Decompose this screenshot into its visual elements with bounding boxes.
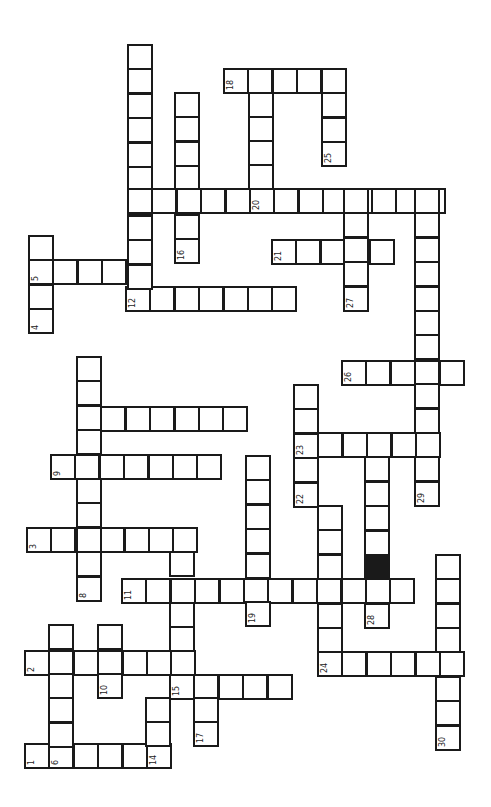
grid-cell[interactable]: 30 [435,725,461,751]
grid-cell[interactable] [174,92,200,118]
grid-cell[interactable] [341,651,367,677]
grid-cell[interactable] [127,93,153,119]
grid-cell[interactable] [435,554,461,580]
grid-cell[interactable] [415,432,441,458]
grid-cell[interactable] [435,578,461,604]
grid-cell[interactable]: 10 [97,673,123,699]
grid-cell[interactable] [341,578,367,604]
grid-cell[interactable] [76,429,102,455]
grid-cell[interactable]: 21 [271,239,297,265]
grid-cell[interactable] [48,697,74,723]
grid-cell[interactable] [292,578,318,604]
grid-cell[interactable] [172,527,198,553]
grid-cell[interactable] [365,578,391,604]
grid-cell[interactable] [170,650,196,676]
grid-cell[interactable] [172,454,198,480]
grid-cell[interactable] [389,578,415,604]
grid-cell[interactable] [97,624,123,650]
grid-cell[interactable]: 16 [174,238,200,264]
grid-cell[interactable] [414,334,440,360]
grid-cell[interactable] [414,310,440,336]
grid-cell[interactable] [174,406,200,432]
grid-cell[interactable] [245,479,271,505]
grid-cell[interactable] [317,529,343,555]
grid-cell[interactable] [414,408,440,434]
grid-cell[interactable]: 1 [24,743,50,769]
grid-cell[interactable] [296,68,322,94]
grid-cell[interactable]: 24 [317,651,343,677]
grid-cell[interactable] [76,551,102,577]
grid-cell[interactable] [272,68,298,94]
grid-cell[interactable] [169,551,195,577]
grid-cell[interactable] [169,602,195,628]
grid-cell[interactable] [364,456,390,482]
grid-cell[interactable] [149,406,175,432]
grid-cell[interactable] [298,188,324,214]
grid-cell[interactable] [435,676,461,702]
grid-cell[interactable] [223,286,249,312]
grid-cell[interactable] [76,405,102,431]
grid-cell[interactable] [73,650,99,676]
grid-cell[interactable] [248,140,274,166]
grid-cell[interactable]: 17 [193,721,219,747]
grid-cell[interactable]: 8 [76,576,102,602]
grid-cell[interactable] [100,406,126,432]
grid-cell[interactable] [127,239,153,265]
grid-cell[interactable] [76,380,102,406]
grid-cell[interactable] [317,627,343,653]
grid-cell[interactable] [225,188,251,214]
grid-cell[interactable]: 3 [26,527,52,553]
grid-cell[interactable] [342,432,368,458]
grid-cell[interactable] [247,286,273,312]
grid-cell[interactable] [371,188,397,214]
grid-cell[interactable] [28,284,54,310]
grid-cell[interactable] [125,406,151,432]
grid-cell[interactable] [390,651,416,677]
grid-cell[interactable] [293,457,319,483]
grid-cell[interactable]: 5 [28,259,54,285]
grid-cell[interactable] [28,235,54,261]
grid-cell[interactable]: 23 [293,433,319,459]
grid-cell[interactable]: 25 [321,141,347,167]
grid-cell[interactable]: 22 [293,482,319,508]
grid-cell[interactable] [364,505,390,531]
grid-cell[interactable] [76,356,102,382]
grid-cell[interactable] [364,554,390,580]
grid-cell[interactable]: 20 [249,188,275,214]
grid-cell[interactable] [414,188,440,214]
grid-cell[interactable]: 28 [364,603,390,629]
grid-cell[interactable] [293,384,319,410]
grid-cell[interactable] [439,651,465,677]
grid-cell[interactable] [248,164,274,190]
grid-cell[interactable] [174,116,200,142]
grid-cell[interactable] [415,651,441,677]
grid-cell[interactable] [76,527,102,553]
grid-cell[interactable] [414,456,440,482]
grid-cell[interactable] [435,700,461,726]
grid-cell[interactable] [369,239,395,265]
grid-cell[interactable] [414,212,440,238]
grid-cell[interactable] [364,481,390,507]
grid-cell[interactable] [174,141,200,167]
grid-cell[interactable]: 27 [343,286,369,312]
grid-cell[interactable]: 18 [223,68,249,94]
grid-cell[interactable] [218,674,244,700]
grid-cell[interactable] [124,527,150,553]
grid-cell[interactable] [343,188,369,214]
grid-cell[interactable] [245,504,271,530]
grid-cell[interactable] [127,264,153,290]
grid-cell[interactable] [245,553,271,579]
grid-cell[interactable] [414,286,440,312]
grid-cell[interactable]: 26 [341,360,367,386]
grid-cell[interactable] [366,432,392,458]
grid-cell[interactable] [127,44,153,70]
grid-cell[interactable] [439,360,465,386]
grid-cell[interactable] [151,188,177,214]
grid-cell[interactable] [245,455,271,481]
grid-cell[interactable] [248,116,274,142]
grid-cell[interactable]: 15 [169,674,195,700]
grid-cell[interactable] [248,92,274,118]
grid-cell[interactable] [414,237,440,263]
grid-cell[interactable] [242,674,268,700]
grid-cell[interactable]: 4 [28,308,54,334]
